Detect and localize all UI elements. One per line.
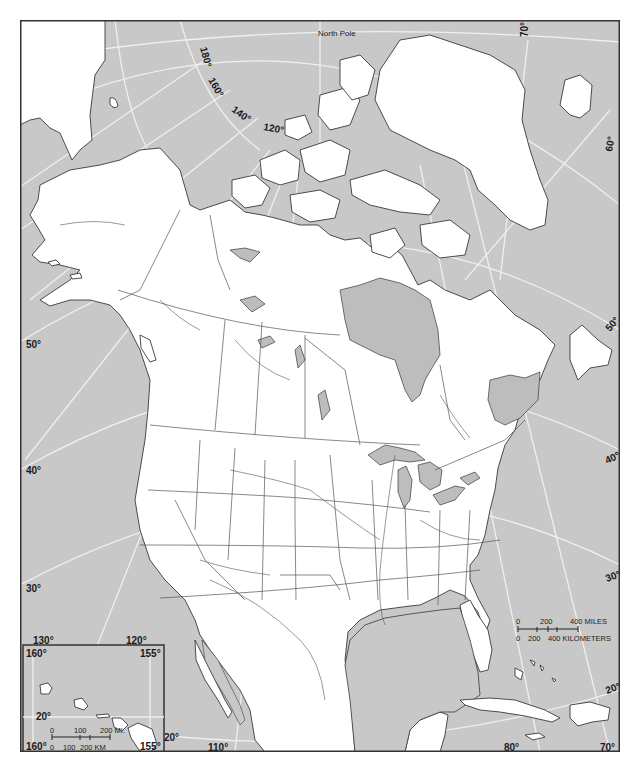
svg-text:200 MI.: 200 MI. [100,726,125,735]
molokai [96,714,110,718]
latitude-label-40-left: 40° [26,465,41,476]
latitude-label-50-left: 50° [26,339,41,350]
svg-text:100: 100 [74,726,87,735]
svg-text:400 KILOMETERS: 400 KILOMETERS [548,634,611,643]
svg-text:0: 0 [516,634,520,643]
svg-text:0: 0 [50,726,54,735]
svg-text:0: 0 [516,617,520,626]
latitude-label-20-left: 20° [164,732,179,743]
north-pole-label: North Pole [318,29,356,38]
svg-text:20°: 20° [36,711,51,722]
longitude-label-70: 70° [519,22,530,37]
north-america-outline-map: North Pole 180° 160° 140° 120° 70° 130° … [20,20,620,752]
svg-text:155°: 155° [140,648,161,659]
svg-text:400 MILES: 400 MILES [570,617,607,626]
hawaii-inset: 160° 155° 160° 155° 20° 0 100 200 MI. 0 … [23,645,164,752]
svg-text:155°: 155° [140,741,161,752]
svg-text:160°: 160° [26,741,47,752]
svg-text:200: 200 [528,634,541,643]
svg-text:160°: 160° [26,648,47,659]
svg-text:200: 200 [540,617,553,626]
latitude-label-30-left: 30° [26,583,41,594]
